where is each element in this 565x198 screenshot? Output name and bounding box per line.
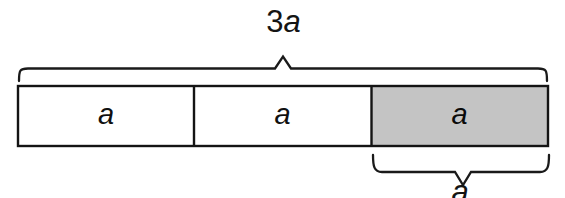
total-length-coefficient: 3: [266, 4, 283, 39]
bar-model-figure: 3a a a a a: [0, 0, 565, 198]
segment-3-label: a: [371, 100, 548, 129]
total-length-variable: a: [284, 4, 301, 39]
top-brace: [19, 57, 547, 82]
segment-2-label: a: [194, 100, 371, 129]
part-length-label: a: [371, 176, 549, 198]
total-length-label: 3a: [0, 6, 565, 37]
segment-1-label: a: [18, 100, 194, 129]
